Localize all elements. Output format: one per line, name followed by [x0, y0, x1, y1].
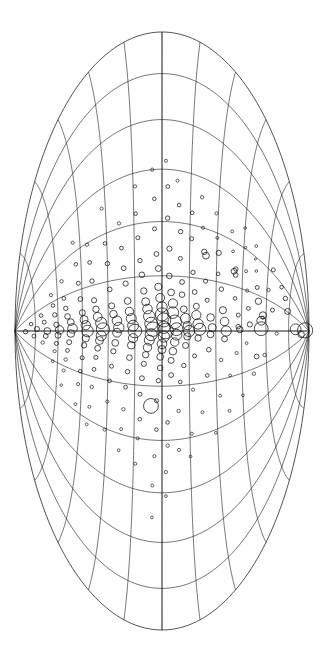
source-marker — [247, 307, 251, 311]
source-marker — [145, 317, 158, 330]
source-marker — [71, 241, 74, 244]
source-marker — [190, 211, 194, 215]
source-marker — [165, 495, 168, 498]
source-marker — [93, 312, 102, 321]
source-marker — [290, 324, 301, 335]
source-marker — [67, 319, 74, 326]
source-marker — [39, 314, 43, 318]
source-marker — [77, 383, 80, 386]
source-marker — [254, 354, 259, 359]
source-marker — [88, 261, 92, 265]
source-marker — [220, 317, 229, 326]
source-marker — [157, 353, 164, 360]
source-marker — [219, 307, 226, 314]
source-marker — [235, 351, 238, 354]
source-marker — [283, 296, 287, 300]
source-marker — [141, 361, 146, 366]
source-marker — [51, 304, 55, 308]
source-marker — [80, 316, 88, 324]
source-marker — [203, 252, 210, 259]
source-marker — [193, 354, 197, 358]
source-marker — [127, 355, 133, 361]
source-marker — [155, 266, 161, 272]
source-marker — [156, 293, 165, 302]
source-marker — [60, 384, 63, 387]
source-marker — [219, 394, 222, 397]
source-marker — [231, 230, 234, 233]
source-marker — [166, 444, 169, 447]
source-marker — [178, 256, 182, 260]
source-marker — [155, 428, 159, 432]
source-marker — [144, 311, 156, 323]
source-marker — [29, 322, 33, 326]
source-marker — [285, 308, 291, 314]
source-marker — [134, 462, 137, 465]
source-marker — [42, 320, 46, 324]
source-marker — [90, 385, 93, 388]
source-marker — [76, 281, 80, 285]
source-marker — [156, 378, 160, 382]
source-marker — [95, 345, 101, 351]
source-marker — [207, 347, 212, 352]
source-marker — [267, 288, 270, 291]
source-marker — [255, 286, 259, 290]
source-marker — [194, 323, 206, 335]
source-marker — [201, 411, 204, 414]
source-marker — [182, 363, 186, 367]
source-marker — [192, 310, 201, 319]
source-marker — [202, 249, 207, 254]
source-marker — [110, 364, 114, 368]
source-marker — [153, 227, 157, 231]
source-marker — [179, 292, 185, 298]
source-marker — [270, 308, 274, 312]
source-marker — [155, 283, 162, 290]
source-marker — [228, 409, 231, 412]
source-marker — [167, 307, 179, 319]
source-marker — [271, 268, 275, 272]
source-marker — [255, 270, 258, 273]
source-marker — [64, 306, 68, 310]
source-marker — [109, 303, 115, 309]
source-marker — [134, 212, 138, 216]
source-marker — [275, 332, 278, 335]
source-marker — [123, 281, 128, 286]
source-marker — [53, 350, 56, 353]
source-marker — [49, 294, 52, 297]
source-marker — [124, 385, 128, 389]
source-marker — [229, 374, 232, 377]
source-marker — [138, 258, 142, 262]
source-marker — [245, 342, 248, 345]
source-marker — [140, 376, 145, 381]
source-marker — [216, 272, 220, 276]
source-marker — [117, 222, 120, 225]
source-marker — [168, 289, 175, 296]
source-marker — [263, 353, 266, 356]
source-marker — [112, 340, 119, 347]
source-marker — [121, 266, 126, 271]
source-marker — [153, 455, 156, 458]
source-marker — [167, 246, 172, 251]
source-marker — [245, 270, 248, 273]
source-marker — [219, 287, 223, 291]
source-marker — [112, 316, 122, 326]
source-marker — [255, 298, 261, 304]
source-marker — [166, 421, 170, 425]
source-marker — [138, 392, 142, 396]
source-marker — [164, 159, 167, 162]
source-marker — [82, 335, 89, 342]
source-marker — [247, 322, 252, 327]
source-marker — [92, 367, 96, 371]
source-marker — [64, 358, 67, 361]
source-marker — [169, 347, 177, 355]
source-marker — [169, 373, 174, 378]
source-marker — [254, 258, 256, 260]
source-marker — [62, 369, 65, 372]
source-marker — [74, 403, 77, 406]
source-marker — [153, 197, 157, 201]
source-marker — [67, 340, 72, 345]
source-marker — [195, 335, 201, 341]
source-marker — [136, 236, 140, 240]
source-marker — [90, 279, 94, 283]
source-marker — [298, 323, 313, 338]
source-marker — [65, 314, 71, 320]
